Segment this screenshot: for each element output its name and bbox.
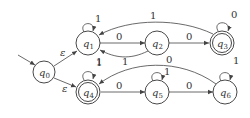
edge-label-q3-q3: 0: [231, 9, 237, 20]
edge-label-q3-q1: 1: [150, 10, 156, 21]
edge-label-q2-q1: 1: [122, 56, 128, 67]
initial-arrow: [18, 55, 35, 65]
edge-label-q2-q3: 0: [186, 31, 192, 42]
edge-q0-q1: [54, 51, 77, 66]
state-q3-accepting: q3: [210, 31, 234, 55]
edge-label-q0-q4: ε: [62, 83, 67, 94]
edge-label-q5-q6: 0: [186, 80, 192, 91]
edge-label-q1-q2: 0: [116, 31, 122, 42]
state-q5: q5: [145, 80, 169, 104]
state-q1: q1: [76, 31, 100, 55]
edge-label-q4-q5: 0: [116, 80, 122, 91]
edge-label-q1-q1: 1: [95, 13, 101, 24]
edge-label-q6-q6: 1: [233, 55, 239, 66]
loop-q4: [83, 72, 94, 80]
edge-label-q2-q1-alt: 1: [96, 56, 102, 67]
edge-label-q5-q5: 1: [164, 66, 170, 77]
automaton-diagram: ε ε 1 0 1 0 1 0 1 0 1 0 1 0 1 q0 q1: [0, 0, 250, 118]
state-q2: q2: [145, 31, 169, 55]
edge-label-q6-q4: 0: [166, 54, 172, 65]
state-q6: q6: [213, 80, 237, 104]
edge-label-q0-q1: ε: [60, 47, 65, 58]
state-q4-accepting: q4: [76, 80, 100, 104]
loop-q3: [217, 23, 229, 31]
state-q0: q0: [33, 61, 55, 83]
